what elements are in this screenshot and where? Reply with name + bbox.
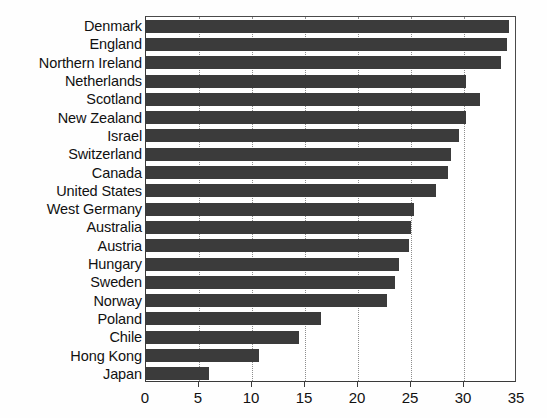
x-tick-label: 35 [508,389,525,406]
gridline-10 [252,17,253,381]
gridline-5 [199,17,200,381]
gridline-15 [305,17,306,381]
x-tick-mark [410,382,411,387]
x-tick-label: 5 [194,389,202,406]
bar [146,184,436,197]
category-label: Austria [0,239,142,253]
x-tick-label: 30 [455,389,472,406]
bar [146,331,299,344]
x-tick-label: 15 [296,389,313,406]
x-tick-label: 25 [402,389,419,406]
gridline-20 [358,17,359,381]
category-label: New Zealand [0,111,142,125]
category-label: Scotland [0,92,142,106]
x-axis: 05101520253035 [145,382,516,416]
category-label: Northern Ireland [0,56,142,70]
bar [146,276,395,289]
bar [146,239,409,252]
x-tick-label: 0 [141,389,149,406]
category-label: Switzerland [0,147,142,161]
category-label: West Germany [0,202,142,216]
category-label: England [0,37,142,51]
bar [146,166,448,179]
plot-area [145,16,516,382]
bar [146,56,501,69]
bar [146,129,459,142]
x-tick-label: 10 [243,389,260,406]
bar [146,20,509,33]
bar [146,294,387,307]
x-tick-label: 20 [349,389,366,406]
category-label: United States [0,184,142,198]
bar [146,75,466,88]
bar-chart: DenmarkEnglandNorthern IrelandNetherland… [0,0,547,418]
x-tick-mark [357,382,358,387]
category-label: Netherlands [0,74,142,88]
category-label: Hong Kong [0,349,142,363]
x-tick-mark [304,382,305,387]
bar [146,148,451,161]
category-label-column: DenmarkEnglandNorthern IrelandNetherland… [0,16,142,382]
x-tick-mark [251,382,252,387]
category-label: Sweden [0,275,142,289]
bar [146,111,466,124]
category-label: Israel [0,129,142,143]
category-label: Denmark [0,19,142,33]
bar [146,93,480,106]
bar [146,258,399,271]
bar [146,38,507,51]
x-tick-mark [463,382,464,387]
bar [146,312,321,325]
bar [146,203,414,216]
category-label: Norway [0,294,142,308]
bar [146,349,259,362]
x-tick-mark [198,382,199,387]
gridline-30 [464,17,465,381]
gridline-25 [411,17,412,381]
category-label: Japan [0,367,142,381]
category-label: Australia [0,220,142,234]
category-label: Poland [0,312,142,326]
category-label: Hungary [0,257,142,271]
category-label: Canada [0,166,142,180]
bar [146,367,209,380]
bar [146,221,411,234]
category-label: Chile [0,330,142,344]
